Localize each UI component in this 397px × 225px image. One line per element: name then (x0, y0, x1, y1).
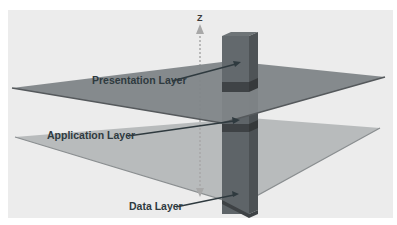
presentation-layer-plane (12, 61, 385, 123)
layer-diagram: Z Presentation Layer Application Layer D… (0, 0, 397, 225)
application-layer-label: Application Layer (47, 129, 135, 141)
z-axis-label: Z (197, 13, 203, 23)
data-layer-label: Data Layer (129, 200, 183, 212)
z-axis-up-arrow-icon (196, 24, 204, 34)
presentation-layer-label: Presentation Layer (92, 74, 187, 86)
